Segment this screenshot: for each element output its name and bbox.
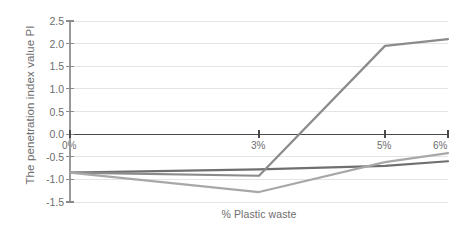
penetration-index-line-chart: The penetration index value PI 2.52.01.5… — [0, 0, 475, 239]
series-line-series-dark — [70, 161, 448, 172]
data-series — [70, 39, 448, 192]
plot-area — [0, 0, 475, 239]
series-line-series-rising — [70, 39, 448, 176]
